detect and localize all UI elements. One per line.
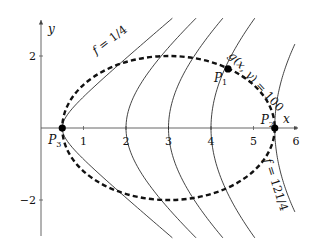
x-tick-label: 5 bbox=[250, 135, 257, 148]
point-p3-label: P3 bbox=[47, 133, 61, 149]
point-p1-marker bbox=[224, 65, 231, 72]
point-p1-label: P1 bbox=[213, 71, 227, 87]
point-p3-marker bbox=[59, 124, 66, 131]
y-tick-labels: 2−2 bbox=[20, 50, 43, 207]
constraint-label: g(x, y) = 100 bbox=[226, 49, 287, 115]
y-tick-label: 2 bbox=[29, 50, 36, 63]
y-axis-label: y bbox=[47, 22, 55, 36]
level-curves-diagram: x y 123456 2−2 f = 1/4 g(x, y) = 100 f =… bbox=[0, 0, 314, 250]
level-label-last: f = 121/4 bbox=[261, 156, 291, 213]
x-tick-labels: 123456 bbox=[80, 126, 300, 148]
point-p2-label: P2 bbox=[260, 113, 274, 129]
x-axis-label: x bbox=[283, 112, 290, 126]
x-tick-label: 6 bbox=[293, 135, 300, 148]
x-tick-label: 3 bbox=[165, 135, 172, 148]
y-tick-label: −2 bbox=[20, 194, 36, 207]
level-label-first: f = 1/4 bbox=[89, 22, 130, 58]
x-tick-label: 1 bbox=[80, 135, 87, 148]
